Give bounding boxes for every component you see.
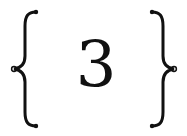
right-brace-icon (148, 8, 182, 130)
set-element: 3 (74, 30, 118, 100)
left-brace-icon (6, 8, 40, 130)
